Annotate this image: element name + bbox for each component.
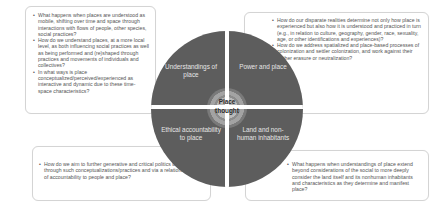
bullet-list: What happens when understandings of plac…: [286, 161, 422, 192]
question-bullet: What happens when understandings of plac…: [286, 161, 422, 192]
bullet-list: What happens when places are understood …: [32, 12, 149, 94]
question-bullet: How do we understand places, at a more l…: [32, 37, 149, 68]
question-bullet: In what ways is place conceptualized/per…: [32, 69, 149, 94]
center-label-line1: Place: [207, 98, 247, 107]
quadrant-label: Understandings of place: [161, 63, 221, 78]
center-label-line2: thought: [207, 107, 247, 116]
questions-box-understandings: What happens when places are understood …: [25, 6, 156, 114]
quadrant-label: Land and non-human inhabitants: [233, 126, 293, 141]
center-label: Place thought: [207, 98, 247, 115]
question-bullet: What happens when places are understood …: [32, 12, 149, 37]
quadrant-label: Power and place: [233, 63, 293, 71]
quadrant-label: Ethical accountability to place: [161, 126, 221, 141]
center-hub: Place thought: [207, 88, 247, 128]
